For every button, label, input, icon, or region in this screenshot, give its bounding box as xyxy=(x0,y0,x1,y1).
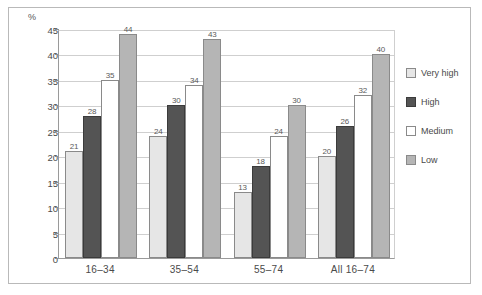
legend-item[interactable]: Very high xyxy=(406,58,470,87)
legend-swatch-medium-icon xyxy=(406,126,416,136)
legend-label: High xyxy=(421,97,440,107)
bar-value-label: 28 xyxy=(88,107,97,116)
legend-swatch-high-icon xyxy=(406,97,416,107)
bar-value-label: 35 xyxy=(106,71,115,80)
bar-value-label: 20 xyxy=(322,147,331,156)
bar[interactable]: 44 xyxy=(119,34,137,258)
y-axis-tick-label: 0 xyxy=(34,254,58,265)
y-axis-tick-label: 45 xyxy=(34,25,58,36)
x-axis-tick-label: 16–34 xyxy=(58,264,142,275)
x-axis-tick-label: All 16–74 xyxy=(311,264,395,275)
y-axis-tick-label: 15 xyxy=(34,177,58,188)
legend-item[interactable]: High xyxy=(406,87,470,116)
y-axis-tick-label: 20 xyxy=(34,152,58,163)
bar[interactable]: 26 xyxy=(336,126,354,258)
y-axis-tick-label: 10 xyxy=(34,203,58,214)
chart-legend: Very highHighMediumLow xyxy=(406,58,470,174)
bar-value-label: 30 xyxy=(292,96,301,105)
legend-item[interactable]: Medium xyxy=(406,116,470,145)
bar[interactable]: 32 xyxy=(354,95,372,258)
bar[interactable]: 24 xyxy=(270,136,288,258)
bar-value-label: 30 xyxy=(172,96,181,105)
bar-group: 20263240 xyxy=(318,31,390,258)
bar-group: 21283544 xyxy=(65,31,137,258)
x-axis-tick-label: 55–74 xyxy=(227,264,311,275)
bar[interactable]: 21 xyxy=(65,151,83,258)
bar-value-label: 13 xyxy=(238,183,247,192)
legend-label: Medium xyxy=(421,126,453,136)
bar-value-label: 24 xyxy=(154,127,163,136)
legend-swatch-veryhigh-icon xyxy=(406,68,416,78)
bar[interactable]: 43 xyxy=(203,39,221,258)
bar-value-label: 32 xyxy=(358,86,367,95)
bar-value-label: 43 xyxy=(208,30,217,39)
legend-swatch-low-icon xyxy=(406,155,416,165)
legend-label: Very high xyxy=(421,68,459,78)
bar-group: 13182430 xyxy=(234,31,306,258)
bar-value-label: 21 xyxy=(70,142,79,151)
bar-group: 24303443 xyxy=(149,31,221,258)
bar[interactable]: 30 xyxy=(288,105,306,258)
y-axis-unit-label: % xyxy=(28,12,36,22)
bar[interactable]: 28 xyxy=(83,116,101,258)
bar-value-label: 34 xyxy=(190,76,199,85)
bar[interactable]: 40 xyxy=(372,54,390,258)
plot-area: 21283544243034431318243020263240 xyxy=(58,30,395,259)
y-axis-tick-label: 5 xyxy=(34,228,58,239)
bar[interactable]: 34 xyxy=(185,85,203,258)
legend-item[interactable]: Low xyxy=(406,145,470,174)
y-axis-tick-label: 35 xyxy=(34,75,58,86)
y-axis: 051015202530354045 xyxy=(28,30,58,259)
bar[interactable]: 13 xyxy=(234,192,252,258)
bar-value-label: 40 xyxy=(376,45,385,54)
y-axis-tick-label: 30 xyxy=(34,101,58,112)
legend-label: Low xyxy=(421,155,438,165)
y-axis-tick-label: 40 xyxy=(34,50,58,61)
bar-value-label: 24 xyxy=(274,127,283,136)
bar[interactable]: 20 xyxy=(318,156,336,258)
bar[interactable]: 24 xyxy=(149,136,167,258)
chart-screenshot: % 051015202530354045 2128354424303443131… xyxy=(0,0,482,295)
bar-value-label: 44 xyxy=(124,25,133,34)
y-axis-tick-label: 25 xyxy=(34,126,58,137)
x-axis-tick-label: 35–54 xyxy=(142,264,226,275)
bar[interactable]: 30 xyxy=(167,105,185,258)
bar-value-label: 26 xyxy=(340,117,349,126)
bar[interactable]: 18 xyxy=(252,166,270,258)
bar[interactable]: 35 xyxy=(101,80,119,258)
bar-value-label: 18 xyxy=(256,157,265,166)
